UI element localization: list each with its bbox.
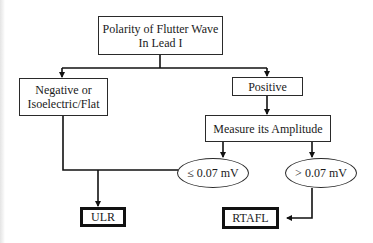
positive-label: Positive bbox=[248, 80, 287, 94]
ulr-box: ULR bbox=[80, 207, 126, 227]
polarity-box: Polarity of Flutter Wave In Lead I bbox=[98, 16, 223, 55]
negative-label-line2: Isoelectric/Flat bbox=[28, 97, 100, 111]
polarity-label-line2: In Lead I bbox=[139, 36, 183, 50]
polarity-label-line1: Polarity of Flutter Wave bbox=[103, 22, 219, 36]
low-amplitude-oval: ≤ 0.07 mV bbox=[177, 158, 249, 188]
measure-box: Measure its Amplitude bbox=[205, 115, 331, 142]
low-amplitude-label: ≤ 0.07 mV bbox=[187, 166, 239, 181]
rtafl-label: RTAFL bbox=[232, 211, 268, 225]
negative-label-line1: Negative or bbox=[35, 83, 91, 97]
positive-box: Positive bbox=[232, 77, 303, 96]
negative-box: Negative or Isoelectric/Flat bbox=[19, 78, 108, 116]
ulr-label: ULR bbox=[91, 210, 115, 224]
measure-label: Measure its Amplitude bbox=[213, 122, 322, 136]
high-amplitude-label: > 0.07 mV bbox=[295, 166, 347, 181]
high-amplitude-oval: > 0.07 mV bbox=[285, 158, 357, 188]
rtafl-box: RTAFL bbox=[222, 207, 279, 229]
